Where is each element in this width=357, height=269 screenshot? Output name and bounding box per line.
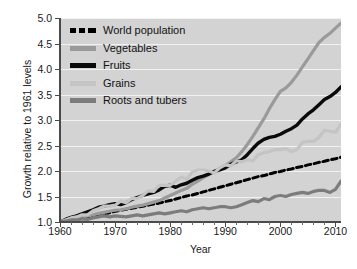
x-tick-mark [170,222,171,227]
legend-item-fruits[interactable]: Fruits [70,57,220,75]
x-tick-minor-mark [324,222,325,225]
y-tick-label: 5.0 [26,13,52,24]
x-tick-minor-mark [126,222,127,225]
legend-item-roots-and-tubers[interactable]: Roots and tubers [70,92,220,110]
y-axis-title: Growth relative to 1961 levels [21,34,33,224]
x-tick-label: 2000 [260,226,300,237]
x-tick-minor-mark [258,222,259,225]
legend-label: World population [103,25,185,36]
x-tick-label: 1960 [40,226,80,237]
x-tick-minor-mark [192,222,193,225]
y-tick-mark [55,197,60,198]
x-tick-minor-mark [82,222,83,225]
x-tick-minor-mark [181,222,182,225]
legend: World populationVegetablesFruitsGrainsRo… [70,22,220,110]
legend-swatch-icon [70,81,96,86]
y-tick-mark [55,44,60,45]
x-tick-minor-mark [71,222,72,225]
y-axis-title-wrap: Growth relative to 1961 levels [2,18,24,222]
x-tick-label: 2010 [315,226,355,237]
x-tick-label: 1970 [95,226,135,237]
y-tick-mark [55,171,60,172]
x-tick-minor-mark [269,222,270,225]
x-tick-minor-mark [214,222,215,225]
legend-item-vegetables[interactable]: Vegetables [70,40,220,58]
x-axis-line [59,221,341,223]
legend-label: Grains [103,78,135,89]
x-tick-minor-mark [159,222,160,225]
x-tick-minor-mark [236,222,237,225]
x-tick-label: 1980 [150,226,190,237]
x-tick-minor-mark [137,222,138,225]
legend-swatch-icon [70,98,96,103]
legend-item-world-population[interactable]: World population [70,22,220,40]
x-axis-title: Year [60,243,341,255]
x-tick-label: 1990 [205,226,245,237]
legend-item-grains[interactable]: Grains [70,75,220,93]
legend-label: Fruits [103,60,131,71]
legend-swatch-icon [70,63,96,68]
x-tick-minor-mark [302,222,303,225]
x-tick-minor-mark [104,222,105,225]
x-tick-mark [60,222,61,227]
x-tick-minor-mark [313,222,314,225]
x-tick-minor-mark [247,222,248,225]
x-tick-mark [280,222,281,227]
x-tick-mark [225,222,226,227]
y-tick-mark [55,120,60,121]
legend-swatch-icon [70,46,96,51]
x-tick-minor-mark [291,222,292,225]
x-tick-minor-mark [203,222,204,225]
x-tick-mark [115,222,116,227]
y-tick-mark [55,18,60,19]
y-tick-mark [55,69,60,70]
legend-swatch-icon [70,28,96,33]
y-tick-mark [55,95,60,96]
y-tick-mark [55,146,60,147]
series-line-roots-and-tubers [60,181,341,222]
x-tick-minor-mark [148,222,149,225]
x-tick-mark [335,222,336,227]
legend-label: Vegetables [103,43,157,54]
legend-label: Roots and tubers [103,95,187,106]
growth-line-chart: 1.01.52.02.53.03.54.04.55.0 196019701980… [0,0,357,269]
x-tick-minor-mark [93,222,94,225]
